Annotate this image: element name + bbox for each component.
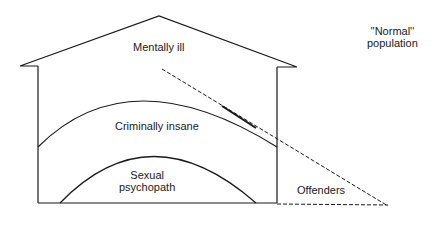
tangent-emphasis (222, 106, 256, 128)
label-normal-population: ''Normal'' population (367, 25, 418, 49)
offenders-dashed-base (277, 204, 388, 205)
label-criminally-insane: Criminally insane (115, 120, 199, 132)
label-sexual-line1: Sexual (119, 169, 175, 181)
label-sexual-psychopath: Sexual psychopath (119, 169, 175, 193)
label-offenders: Offenders (297, 184, 345, 196)
label-mentally-ill: Mentally ill (133, 41, 184, 53)
label-sexual-line2: psychopath (119, 181, 175, 193)
label-normal-line2: population (367, 37, 418, 49)
label-normal-line1: ''Normal'' (367, 25, 418, 37)
offenders-dashed-line (162, 69, 388, 206)
